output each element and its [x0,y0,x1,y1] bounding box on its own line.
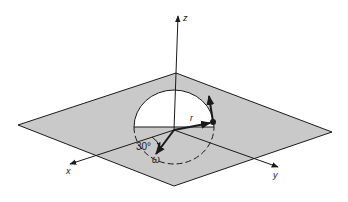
z-axis-label: z [182,13,188,23]
x-axis-label: x [65,166,71,176]
y-axis-label: y [272,170,278,180]
omega-label: ω [152,154,160,165]
rotating-frame-diagram: z x y r ω 30° [0,0,348,202]
angle-label: 30° [136,141,151,152]
diagram-canvas: z x y r ω 30° [0,0,348,202]
